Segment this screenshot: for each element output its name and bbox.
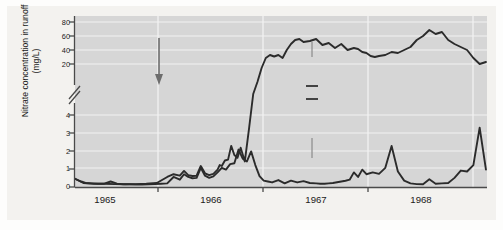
axis-svg xyxy=(0,0,503,230)
series-break-mark xyxy=(306,86,318,99)
figure: Nitrate concentration in runoff (mg/L) 8… xyxy=(0,0,503,230)
axis-break-mark xyxy=(69,86,80,104)
